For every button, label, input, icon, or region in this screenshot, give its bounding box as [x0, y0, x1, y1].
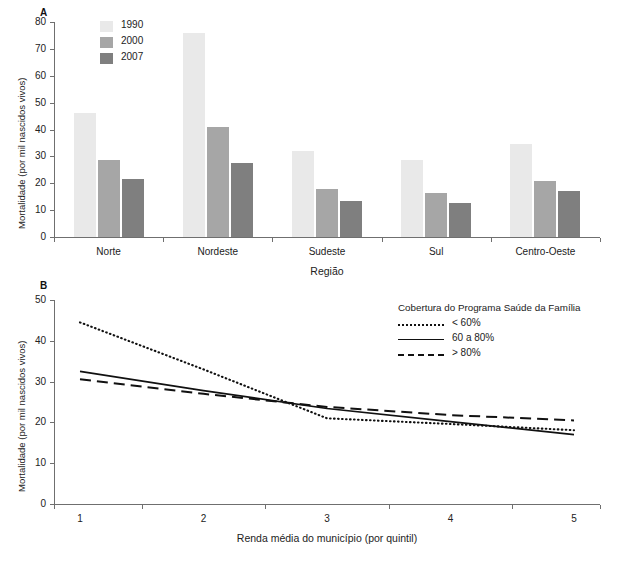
- panel-b-legend-row: > 80%: [398, 347, 580, 362]
- panel-a-category-label: Nordeste: [163, 246, 272, 257]
- panel-b-legend-row: < 60%: [398, 317, 580, 332]
- panel-a-y-tick-label: 50: [14, 97, 46, 108]
- panel-a-bar: [340, 201, 362, 237]
- panel-a-legend-label: 1990: [121, 19, 143, 30]
- panel-b-line: [80, 379, 574, 420]
- panel-a: A Mortalidade (por mil nascidos vivos) R…: [0, 0, 617, 272]
- panel-a-bar: [558, 191, 580, 237]
- panel-a-legend-swatch: [100, 21, 113, 32]
- panel-a-category-label: Sul: [382, 246, 491, 257]
- panel-a-bar: [183, 33, 205, 237]
- panel-a-y-tick-label: 80: [14, 16, 46, 27]
- panel-a-bar: [98, 160, 120, 237]
- panel-a-bar: [425, 193, 447, 237]
- panel-a-y-tick-label: 30: [14, 150, 46, 161]
- panel-b-legend-title: Cobertura do Programa Saúde da Família: [398, 302, 580, 313]
- panel-a-x-tick: [491, 238, 492, 242]
- panel-b-legend-label: < 60%: [452, 317, 481, 328]
- panel-b-line: [80, 371, 574, 434]
- panel-a-bar: [292, 151, 314, 237]
- panel-b: B Mortalidade (por mil nascidos vivos) R…: [0, 272, 617, 562]
- panel-b-legend-rows: < 60%60 a 80%> 80%: [398, 317, 580, 362]
- panel-a-category-label: Norte: [54, 246, 163, 257]
- panel-a-bar: [534, 181, 556, 237]
- panel-a-category-label: Sudeste: [272, 246, 381, 257]
- panel-a-bar: [74, 113, 96, 237]
- panel-a-x-tick: [272, 238, 273, 242]
- panel-a-y-tick-label: 70: [14, 43, 46, 54]
- panel-a-legend-label: 2000: [121, 35, 143, 46]
- panel-a-x-axis-line: [54, 237, 600, 238]
- panel-a-x-tick: [382, 238, 383, 242]
- panel-b-legend-row: 60 a 80%: [398, 332, 580, 347]
- panel-a-category-label: Centro-Oeste: [491, 246, 600, 257]
- panel-a-y-tick-label: 0: [14, 231, 46, 242]
- panel-a-x-tick: [600, 238, 601, 242]
- panel-a-x-tick: [163, 238, 164, 242]
- panel-a-bar: [449, 203, 471, 237]
- figure-footer-strip: [0, 556, 617, 562]
- panel-b-legend: Cobertura do Programa Saúde da Família <…: [398, 302, 580, 362]
- panel-a-bar: [401, 160, 423, 237]
- panel-a-bar: [207, 127, 229, 237]
- panel-b-legend-label: > 80%: [452, 347, 481, 358]
- panel-a-bar: [316, 189, 338, 237]
- panel-a-y-tick-label: 40: [14, 124, 46, 135]
- panel-a-legend-swatch: [100, 53, 113, 64]
- panel-b-legend-line-key: [398, 354, 444, 356]
- panel-a-x-tick: [54, 238, 55, 242]
- panel-b-legend-line-key: [398, 339, 444, 340]
- panel-a-legend-swatch: [100, 37, 113, 48]
- panel-a-bar: [510, 144, 532, 237]
- panel-a-y-tick-label: 10: [14, 204, 46, 215]
- panel-b-legend-label: 60 a 80%: [452, 332, 494, 343]
- panel-a-y-tick-label: 60: [14, 70, 46, 81]
- panel-a-y-tick-label: 20: [14, 177, 46, 188]
- figure-root: A Mortalidade (por mil nascidos vivos) R…: [0, 0, 617, 562]
- panel-b-legend-line-key: [398, 324, 444, 326]
- panel-a-bar: [231, 163, 253, 237]
- panel-a-bar: [122, 179, 144, 237]
- panel-a-legend-label: 2007: [121, 51, 143, 62]
